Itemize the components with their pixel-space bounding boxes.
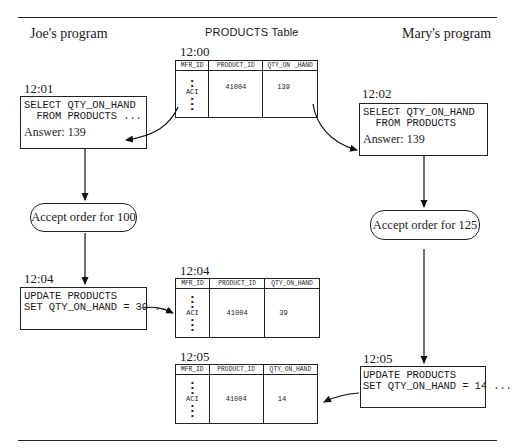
ellipsis-dots: ••• [176,96,208,111]
table-time-1204: 12:04 [180,263,210,279]
joe-update-time: 12:04 [24,271,54,287]
mary-decision-pill: Accept order for 125 [370,210,480,240]
mary-update-time: 12:05 [363,351,393,367]
column-header: PRODUCT_ID [209,61,263,71]
column-header: PRODUCT_ID [209,365,263,375]
mary-select-time: 12:02 [362,86,392,102]
column-header: PRODUCT_ID [210,279,265,289]
mary-update-box: UPDATE PRODUCTS SET QTY_ON_HAND = 14 ... [360,366,486,408]
mary-update-line2: SET QTY_ON_HAND = 14 ... [363,381,512,392]
ellipsis-dots: ••• [176,317,209,332]
product-id-cell: 41004 [209,71,263,118]
arrow-table-to-mary-select [313,104,357,150]
joe-select-line2: FROM PRODUCTS ... [24,111,142,122]
column-header: QTY_ON_HAND [263,365,317,375]
column-header: QTY_ON_HAND [265,279,320,289]
ellipsis-dots: •• [176,78,208,88]
table-time-1200: 12:00 [180,44,210,60]
ellipsis-dots: ••• [176,380,209,395]
table-time-1205: 12:05 [180,349,210,365]
qty-on-hand-cell: 14 [263,375,317,424]
products-table-1200: MFR_ID PRODUCT_ID QTY_ON _HAND ••ACI••• … [175,60,318,118]
joe-update-box: UPDATE PRODUCTS SET QTY_ON_HAND = 39 ... [20,287,147,330]
joe-select-answer: Answer: 139 [24,125,86,140]
table-row: ••ACI••• 41004 139 [176,71,318,118]
marys-program-heading: Mary's program [402,26,491,42]
joe-update-line2: SET QTY_ON_HAND = 39 ... [24,302,173,313]
qty-on-hand-cell: 39 [265,289,320,338]
top-rule [18,17,497,18]
table-row: •••ACI••• 41004 14 [176,375,318,424]
bottom-rule [18,440,497,441]
qty-on-hand-cell: 139 [263,71,318,118]
joe-select-time: 12:01 [24,81,54,97]
products-table-1204: MFR_ID PRODUCT_ID QTY_ON_HAND •••ACI••• … [175,278,320,338]
joe-select-box: SELECT QTY_ON_HAND FROM PRODUCTS ... Ans… [20,96,147,149]
joe-decision-pill: Accept order for 100 [30,203,137,232]
ellipsis-dots: ••• [176,403,209,418]
column-header: MFR_ID [176,61,209,71]
products-table-heading: PRODUCTS Table [205,26,299,38]
products-table-1205: MFR_ID PRODUCT_ID QTY_ON_HAND •••ACI••• … [175,364,318,424]
mary-select-answer: Answer: 139 [363,132,425,147]
column-header: MFR_ID [176,279,210,289]
mary-select-box: SELECT QTY_ON_HAND FROM PRODUCTS Answer:… [359,103,488,156]
product-id-cell: 41004 [210,289,265,338]
column-header: QTY_ON _HAND [263,61,318,71]
column-header: MFR_ID [176,365,210,375]
product-id-cell: 41004 [209,375,263,424]
arrow-mary-update-to-table-1205 [324,393,359,402]
joes-program-heading: Joe's program [30,26,108,42]
mary-select-line2: FROM PRODUCTS [363,118,456,129]
ellipsis-dots: ••• [176,294,209,309]
table-row: •••ACI••• 41004 39 [176,289,320,338]
